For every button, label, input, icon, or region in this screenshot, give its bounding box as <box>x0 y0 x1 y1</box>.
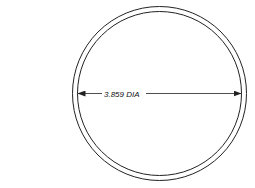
ring-drawing: 3.859 DIA <box>0 0 255 188</box>
dimension-label: 3.859 DIA <box>104 90 140 99</box>
